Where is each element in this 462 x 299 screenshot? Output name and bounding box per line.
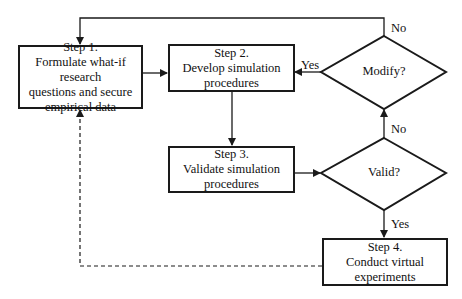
modify-decision-label: Modify? xyxy=(324,64,444,79)
step1-line3: empirical data xyxy=(45,100,116,115)
step1-title: Step 1. xyxy=(63,40,98,55)
valid-yes-label: Yes xyxy=(391,217,409,231)
step2-box: Step 2. Develop simulation procedures xyxy=(168,44,295,92)
step2-title: Step 2. xyxy=(214,46,249,61)
step4-box: Step 4. Conduct virtual experiments xyxy=(322,238,448,286)
step2-line1: Develop simulation xyxy=(182,61,280,76)
step4-line2: experiments xyxy=(354,270,415,285)
step4-title: Step 4. xyxy=(368,240,403,255)
step1-line1: Formulate what-if research xyxy=(20,55,141,85)
step1-box: Step 1. Formulate what-if research quest… xyxy=(18,45,143,109)
step1-line2: questions and secure xyxy=(29,85,132,100)
arrow-modify-to-step1 xyxy=(80,18,384,44)
step3-box: Step 3. Validate simulation procedures xyxy=(168,146,295,193)
valid-decision-label: Valid? xyxy=(324,165,444,180)
modify-yes-label: Yes xyxy=(301,58,319,72)
valid-no-label: No xyxy=(391,122,406,136)
step2-line2: procedures xyxy=(204,76,259,91)
step3-line1: Validate simulation xyxy=(183,162,280,177)
step4-line1: Conduct virtual xyxy=(346,255,424,270)
step3-title: Step 3. xyxy=(214,147,249,162)
step3-line2: procedures xyxy=(204,177,259,192)
modify-no-label: No xyxy=(391,21,406,35)
